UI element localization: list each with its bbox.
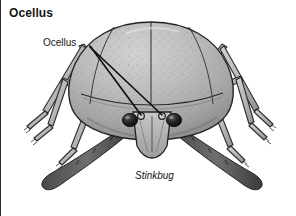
- right-compound-eye: [166, 113, 181, 126]
- page-title: Ocellus: [9, 6, 53, 20]
- left-compound-eye: [122, 113, 137, 126]
- stinkbug-illustration: [1, 0, 296, 216]
- stinkbug-ocellus-figure: Ocellus Ocellus Stinkbug: [0, 0, 296, 216]
- figure-caption: Stinkbug: [135, 170, 174, 181]
- ocellus-callout-label: Ocellus: [43, 37, 76, 48]
